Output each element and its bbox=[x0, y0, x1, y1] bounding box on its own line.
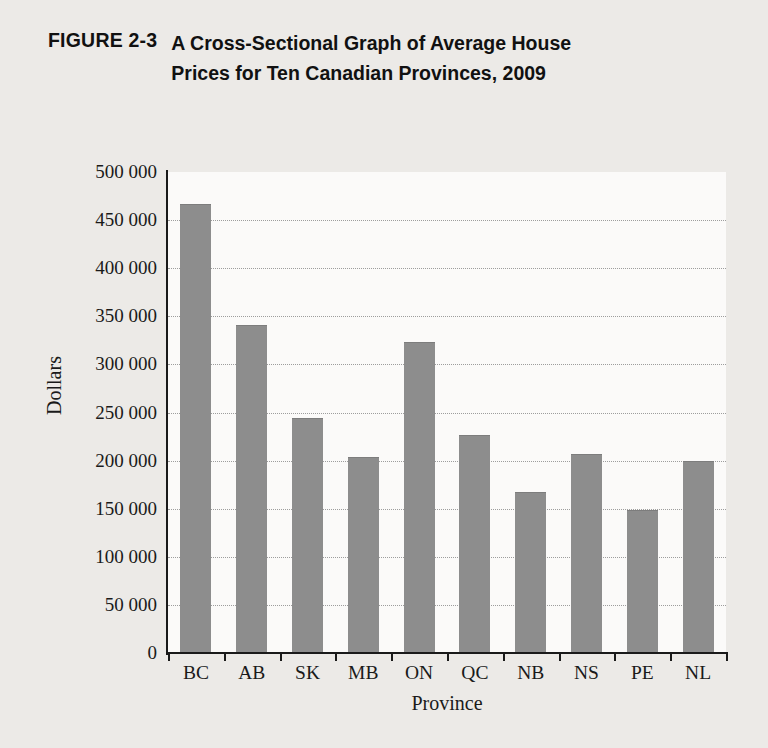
x-axis-tick-label: MB bbox=[348, 662, 378, 684]
y-axis-tick-label: 450 000 bbox=[95, 209, 157, 231]
x-axis-tick bbox=[335, 652, 337, 661]
bar bbox=[236, 325, 267, 653]
x-axis-tick bbox=[559, 652, 561, 661]
gridline bbox=[168, 220, 726, 221]
x-axis-tick bbox=[168, 652, 170, 661]
bar bbox=[571, 454, 602, 653]
bar bbox=[292, 418, 323, 653]
x-axis-tick bbox=[391, 652, 393, 661]
x-axis-tick-label: PE bbox=[631, 662, 654, 684]
x-axis-title: Province bbox=[168, 692, 726, 715]
x-axis-tick bbox=[503, 652, 505, 661]
gridline bbox=[168, 316, 726, 317]
y-axis-tick-label: 350 000 bbox=[95, 305, 157, 327]
y-axis-line bbox=[166, 170, 168, 655]
bar bbox=[180, 204, 211, 653]
x-axis-tick-label: NS bbox=[574, 662, 599, 684]
x-axis-tick bbox=[224, 652, 226, 661]
y-axis-tick-label: 250 000 bbox=[95, 402, 157, 424]
x-axis-tick-label: ON bbox=[405, 662, 433, 684]
bar bbox=[627, 510, 658, 653]
bar bbox=[515, 492, 546, 653]
y-axis-tick-label: 100 000 bbox=[95, 546, 157, 568]
gridline bbox=[168, 268, 726, 269]
x-axis-tick bbox=[670, 652, 672, 661]
x-axis-tick bbox=[280, 652, 282, 661]
x-axis-tick-label: SK bbox=[295, 662, 320, 684]
y-axis-tick-labels: 500 000450 000400 000350 000300 000250 0… bbox=[0, 0, 157, 748]
x-axis-tick-label: NB bbox=[517, 662, 544, 684]
bar bbox=[459, 435, 490, 653]
bar bbox=[348, 457, 379, 653]
x-axis-tick bbox=[614, 652, 616, 661]
x-axis-tick bbox=[726, 652, 728, 661]
y-axis-tick-label: 200 000 bbox=[95, 450, 157, 472]
y-axis-tick-label: 0 bbox=[148, 642, 158, 664]
y-axis-tick-label: 500 000 bbox=[95, 161, 157, 183]
x-axis-tick-label: QC bbox=[461, 662, 488, 684]
bar bbox=[683, 461, 714, 653]
bar-chart: 500 000450 000400 000350 000300 000250 0… bbox=[0, 0, 768, 748]
x-axis-tick bbox=[447, 652, 449, 661]
x-axis-tick-label: AB bbox=[238, 662, 265, 684]
y-axis-tick-label: 150 000 bbox=[95, 498, 157, 520]
plot-area bbox=[168, 172, 726, 653]
bar bbox=[404, 342, 435, 653]
y-axis-tick-label: 400 000 bbox=[95, 257, 157, 279]
x-axis-tick-label: BC bbox=[183, 662, 209, 684]
y-axis-tick-label: 50 000 bbox=[105, 594, 157, 616]
y-axis-tick-label: 300 000 bbox=[95, 353, 157, 375]
x-axis-tick-label: NL bbox=[685, 662, 711, 684]
y-axis-title: Dollars bbox=[43, 326, 66, 446]
